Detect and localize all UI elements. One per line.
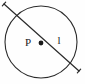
- center-point-label: P: [25, 36, 31, 48]
- geometry-figure: P l: [0, 0, 85, 84]
- diagram-canvas: P l: [0, 0, 85, 84]
- line-label: l: [57, 34, 60, 46]
- center-point-dot-icon: [39, 41, 44, 46]
- secant-line: [4, 4, 79, 71]
